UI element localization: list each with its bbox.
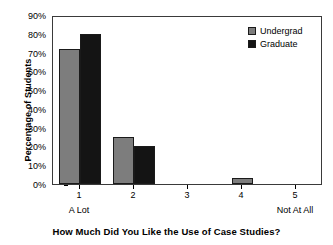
- y-tick-label: 70%: [16, 49, 46, 58]
- legend-item-undergrad: Undergrad: [248, 26, 303, 36]
- bar-chart: Percentage of Students 0%10%20%30%40%50%…: [0, 0, 333, 245]
- x-axis-high-label: Not At All: [260, 205, 330, 215]
- bar-undergrad-2: [113, 137, 134, 184]
- y-tick-label: 20%: [16, 143, 46, 152]
- x-tick-mark: [241, 185, 242, 189]
- x-tick-mark: [295, 185, 296, 189]
- x-tick-mark: [133, 185, 134, 189]
- x-tick-mark: [79, 185, 80, 189]
- y-tick-label: 80%: [16, 30, 46, 39]
- bar-group: [113, 17, 155, 184]
- bar-undergrad-4: [232, 178, 253, 184]
- x-tick-label: 1: [59, 190, 99, 200]
- y-tick-label: 90%: [16, 12, 46, 21]
- gray-square-swatch-icon: [248, 27, 256, 35]
- y-axis-ticks: 0%10%20%30%40%50%60%70%80%90%: [16, 16, 46, 185]
- legend: Undergrad Graduate: [248, 26, 303, 49]
- y-tick-label: 60%: [16, 68, 46, 77]
- x-tick-label: 2: [113, 190, 153, 200]
- bar-graduate-2: [134, 146, 155, 184]
- bar-undergrad-1: [59, 49, 80, 184]
- y-tick-label: 40%: [16, 105, 46, 114]
- x-tick-label: 4: [221, 190, 261, 200]
- black-square-swatch-icon: [248, 40, 256, 48]
- bar-graduate-1: [80, 34, 101, 184]
- legend-item-graduate: Graduate: [248, 39, 303, 49]
- chart-title: How Much Did You Like the Use of Case St…: [0, 226, 333, 237]
- y-tick-label: 50%: [16, 87, 46, 96]
- x-axis-ticks: 12345A LotNot At All: [52, 185, 322, 225]
- y-tick-label: 0%: [16, 181, 46, 190]
- y-tick-label: 10%: [16, 162, 46, 171]
- bar-group: [59, 17, 101, 184]
- bar-group: [167, 17, 209, 184]
- x-tick-label: 5: [275, 190, 315, 200]
- y-tick-label: 30%: [16, 124, 46, 133]
- x-axis-low-label: A Lot: [44, 205, 114, 215]
- x-tick-mark: [187, 185, 188, 189]
- legend-label-undergrad: Undergrad: [260, 26, 303, 36]
- x-tick-label: 3: [167, 190, 207, 200]
- legend-label-graduate: Graduate: [260, 39, 298, 49]
